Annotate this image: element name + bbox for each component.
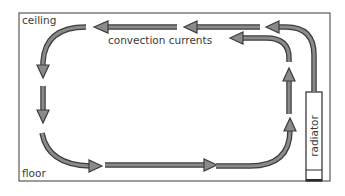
floor-label: floor <box>22 168 46 179</box>
arrow-ceiling-left-2 <box>94 21 177 33</box>
convection-diagram: ceiling floor convection currents radiat… <box>0 0 345 196</box>
radiator-label: radiator <box>309 115 320 157</box>
arrow-corner-bottom-right <box>216 118 296 166</box>
arrow-corner-bottom-left <box>42 133 102 172</box>
arrow-floor-right <box>105 159 217 171</box>
arrow-right-up <box>283 68 295 114</box>
arrow-left-wall-down <box>37 86 49 123</box>
ceiling-label: ceiling <box>22 15 56 26</box>
arrow-radiator-up-inner <box>230 32 289 62</box>
arrow-ceiling-left-1 <box>184 21 260 33</box>
arrow-corner-top-left <box>37 27 86 78</box>
diagram-canvas <box>0 0 345 196</box>
convection-currents-label: convection currents <box>108 35 212 46</box>
